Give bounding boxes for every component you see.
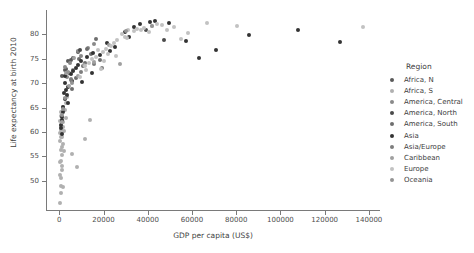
data-point — [71, 69, 75, 73]
data-point — [214, 48, 218, 52]
data-point — [179, 37, 183, 41]
data-point — [70, 81, 74, 85]
data-point — [63, 96, 67, 100]
legend-item-africa-s[interactable]: Africa, S — [386, 85, 474, 96]
legend-label: Africa, N — [404, 76, 434, 84]
data-point — [90, 71, 94, 75]
data-point — [138, 22, 142, 26]
legend-item-caribbean[interactable]: Caribbean — [386, 152, 474, 163]
data-point — [60, 145, 64, 149]
x-tick-mark — [59, 211, 60, 215]
data-point — [184, 39, 188, 43]
legend-swatch-icon — [390, 89, 394, 93]
legend-title: Region — [406, 62, 474, 71]
data-point — [58, 139, 62, 143]
data-point — [165, 28, 169, 32]
data-point — [63, 65, 67, 69]
data-point — [68, 61, 72, 65]
legend: Region Africa, NAfrica, SAmerica, Centra… — [386, 62, 474, 186]
x-tick-mark — [369, 211, 370, 215]
data-point — [296, 28, 300, 32]
data-point — [62, 91, 66, 95]
legend-item-america-north[interactable]: America, North — [386, 108, 474, 119]
data-point — [62, 149, 66, 153]
x-tick-mark — [236, 211, 237, 215]
legend-label: America, North — [404, 109, 457, 117]
data-point — [85, 55, 89, 59]
legend-swatch-icon — [390, 78, 394, 82]
legend-label: Asia — [404, 132, 419, 140]
data-point — [92, 42, 96, 46]
x-tick-mark — [280, 211, 281, 215]
data-point — [94, 55, 98, 59]
x-tick-mark — [148, 211, 149, 215]
data-point — [88, 118, 92, 122]
legend-swatch-icon — [390, 167, 394, 171]
legend-item-america-south[interactable]: America, South — [386, 119, 474, 130]
legend-item-asia[interactable]: Asia — [386, 130, 474, 141]
x-tick-mark — [325, 211, 326, 215]
legend-item-africa-n[interactable]: Africa, N — [386, 74, 474, 85]
data-point — [79, 59, 83, 63]
data-point — [113, 45, 117, 49]
data-point — [150, 24, 154, 28]
data-point — [99, 67, 103, 71]
data-point — [60, 168, 64, 172]
legend-item-asia-europe[interactable]: Asia/Europe — [386, 141, 474, 152]
x-tick-mark — [104, 211, 105, 215]
data-point — [63, 81, 67, 85]
data-point — [125, 36, 129, 40]
data-point — [338, 40, 342, 44]
legend-label: Oceania — [404, 176, 433, 184]
data-point — [87, 61, 91, 65]
data-point — [59, 176, 63, 180]
data-point — [155, 22, 159, 26]
y-tick-label: 55 — [15, 152, 39, 160]
data-point — [162, 38, 166, 42]
legend-item-oceania[interactable]: Oceania — [386, 175, 474, 186]
legend-swatch-icon — [390, 122, 394, 126]
data-point — [139, 28, 143, 32]
data-point — [85, 47, 89, 51]
legend-swatch-icon — [390, 100, 394, 104]
data-point — [132, 29, 136, 33]
data-point — [167, 21, 171, 25]
legend-item-europe[interactable]: Europe — [386, 164, 474, 175]
data-point — [64, 116, 68, 120]
legend-item-america-central[interactable]: America, Central — [386, 96, 474, 107]
data-point — [94, 37, 98, 41]
data-point — [172, 25, 176, 29]
x-axis-spine — [46, 210, 380, 211]
data-point — [60, 164, 64, 168]
data-point — [98, 58, 102, 62]
data-point — [70, 87, 74, 91]
data-point — [124, 29, 128, 33]
data-point — [83, 137, 87, 141]
legend-swatch-icon — [390, 134, 394, 138]
data-point — [147, 30, 151, 34]
y-axis-label: Life expectancy at birth 2010 — [9, 23, 18, 163]
legend-label: Europe — [404, 165, 429, 173]
data-point — [235, 24, 239, 28]
data-point — [118, 62, 122, 66]
data-point — [78, 75, 82, 79]
legend-label: America, Central — [404, 98, 463, 106]
data-point — [90, 57, 94, 61]
y-tick-label: 60 — [15, 128, 39, 136]
y-axis-label-wrapper: Life expectancy at birth 2010 — [0, 0, 40, 1]
legend-swatch-icon — [390, 145, 394, 149]
x-axis-label: GDP per capita (US$) — [46, 231, 380, 240]
data-point — [58, 173, 62, 177]
data-point — [96, 48, 100, 52]
x-tick-mark — [192, 211, 193, 215]
data-point — [205, 21, 209, 25]
data-point — [114, 54, 118, 58]
y-tick-label: 65 — [15, 104, 39, 112]
scatter-plot-figure: 50556065707580 0200004000060000800001000… — [0, 0, 474, 253]
legend-swatch-icon — [390, 111, 394, 115]
legend-items: Africa, NAfrica, SAmerica, CentralAmeric… — [386, 74, 474, 186]
y-tick-label: 50 — [15, 177, 39, 185]
data-point — [59, 159, 63, 163]
data-point — [61, 107, 65, 111]
legend-label: Africa, S — [404, 87, 433, 95]
